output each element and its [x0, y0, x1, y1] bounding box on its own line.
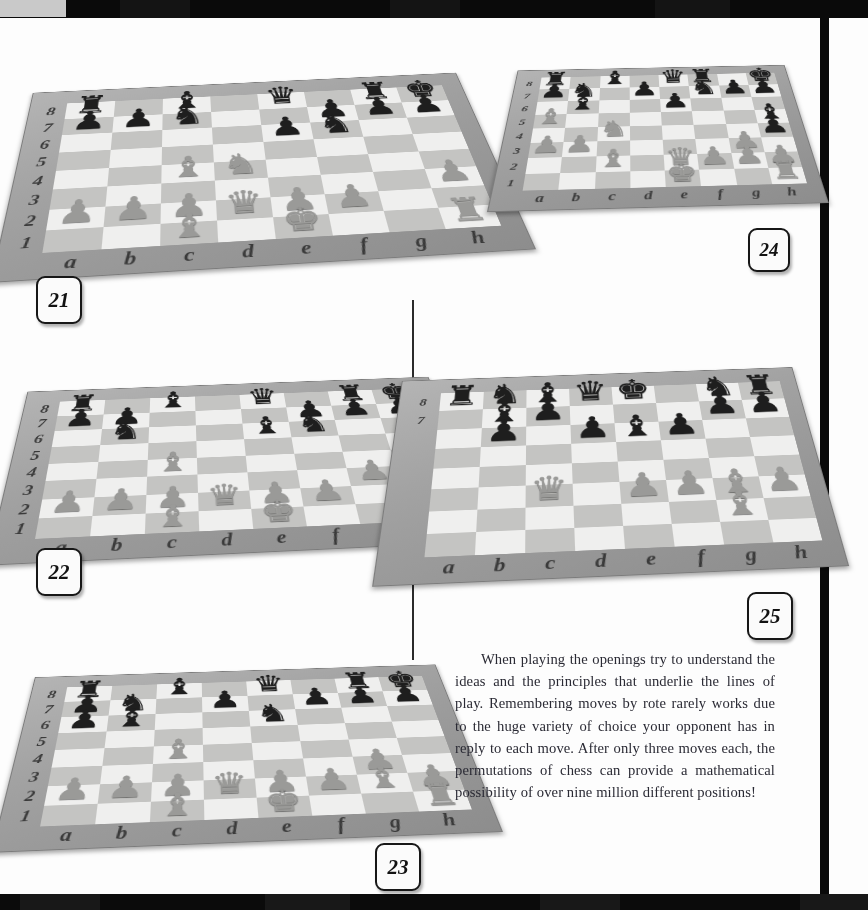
- chess-piece: ♟: [249, 488, 303, 509]
- board-square: ♞: [689, 86, 721, 99]
- chess-piece: ♞: [689, 86, 721, 99]
- board-square: [702, 418, 750, 438]
- chess-diagram-24[interactable]: ♜♝♛♜♚♟♞♟♞♟♟♝♟♝♝♞♟♟♟♟♝♛♟♟♟♚♜ 87654321 abc…: [505, 26, 805, 232]
- chess-piece: ♟: [300, 486, 355, 507]
- board-square: ♟: [202, 696, 249, 713]
- board-square: ♟: [526, 406, 570, 426]
- chess-piece: ♝: [712, 477, 763, 500]
- rank-label-6: 6: [27, 135, 62, 154]
- board-square: ♟: [353, 755, 408, 775]
- board-square: ♟: [401, 100, 454, 118]
- chess-piece: ♜: [768, 167, 807, 184]
- board-square: ♟: [39, 497, 95, 519]
- chess-piece: ♞: [289, 420, 339, 437]
- board-square: ♟: [570, 423, 616, 444]
- board-square: ♝: [567, 100, 599, 114]
- board-square: [694, 124, 728, 139]
- board-square: ♛: [664, 154, 700, 171]
- board-square: [329, 211, 390, 236]
- board-square: [199, 509, 254, 531]
- board-square: ♟: [537, 89, 569, 102]
- top-bar-segment: [390, 0, 460, 18]
- board-square: [621, 501, 671, 525]
- board-square: ♝: [716, 498, 768, 522]
- chess-piece: ♟: [481, 426, 526, 447]
- chess-piece: ♝: [357, 773, 413, 794]
- rank-label-1: 1: [1, 519, 39, 541]
- bottom-registration-bar: [0, 894, 868, 910]
- board-square: ♝: [150, 800, 204, 822]
- rank-label-4: 4: [506, 129, 533, 144]
- board-square: [574, 526, 625, 551]
- chess-piece: ♜: [439, 392, 484, 411]
- board-square: ♛: [198, 490, 251, 511]
- chess-piece: ♟: [764, 151, 802, 167]
- rank-label-4: 4: [20, 750, 55, 769]
- rank-label-8: 8: [29, 402, 60, 418]
- board-square: ♟: [764, 151, 802, 167]
- chess-piece: ♟: [112, 114, 162, 133]
- rank-label-6: 6: [512, 102, 538, 116]
- board-square: [571, 442, 618, 463]
- board-square: [699, 169, 736, 186]
- rank-label-5: [399, 449, 433, 470]
- board-square: [763, 496, 816, 520]
- chess-diagram-21[interactable]: ♜♝♛♜♚♟♟♞♟♟♟♟♞♝♞♟♟♟♟♛♟♟♝♚♜ 87654321 abcde…: [18, 30, 496, 295]
- board-square: ♟: [249, 488, 303, 509]
- board-square: [672, 522, 724, 547]
- board-square: [630, 170, 666, 188]
- board-square: [594, 171, 630, 189]
- board-square: [616, 440, 663, 461]
- chess-piece: ♟: [255, 777, 309, 798]
- chess-piece: ♛: [198, 490, 251, 511]
- board-square: [477, 486, 525, 509]
- chess-diagram-23[interactable]: ♜♝♛♜♚♟♞♟♟♟♟♟♝♞♝♟♟♟♟♛♟♟♝♟♝♚♜ 87654321 abc…: [18, 622, 468, 870]
- bottom-bar-segment: [540, 894, 620, 910]
- chess-piece: ♝: [533, 114, 567, 128]
- chess-piece: ♟: [537, 89, 569, 102]
- board-square: [341, 706, 392, 723]
- rank-label-2: 2: [11, 786, 48, 807]
- board-square: ♟: [255, 777, 309, 798]
- board-square: ♟: [151, 780, 204, 801]
- board-square: [723, 110, 757, 124]
- board-square: [435, 428, 481, 449]
- rank-label-2: 2: [6, 499, 43, 520]
- rank-label-3: 3: [16, 768, 52, 788]
- board-square: ♜: [768, 167, 807, 184]
- chess-piece: ♟: [354, 102, 406, 120]
- board-square: [155, 712, 203, 729]
- chess-piece: ♛: [239, 393, 286, 409]
- board-square: [705, 437, 754, 458]
- chess-piece: ♛: [257, 92, 307, 109]
- board-square: [35, 516, 92, 539]
- chess-piece: ♞: [310, 120, 363, 139]
- board-square: [573, 482, 622, 505]
- board-square: [156, 697, 203, 714]
- board-square: [531, 128, 566, 143]
- chess-piece: ♟: [660, 98, 692, 112]
- chess-piece: ♟: [697, 153, 733, 170]
- file-label-a: a: [519, 191, 558, 211]
- chess-piece: ♟: [748, 84, 781, 97]
- board-square: ♝: [533, 114, 567, 128]
- rank-label-3: 3: [15, 190, 53, 212]
- board-square: [734, 168, 772, 185]
- diagram-label-25: 25: [747, 592, 793, 640]
- board-square: ♞: [597, 126, 630, 141]
- board-square: [525, 157, 562, 174]
- chess-piece: ♟: [742, 398, 789, 418]
- board-square: ♟: [562, 141, 597, 157]
- chess-piece: ♟: [353, 755, 408, 775]
- board-square: ♟: [697, 153, 733, 170]
- board-square: ♚: [257, 796, 313, 818]
- rank-label-2: 2: [10, 210, 49, 233]
- rank-label-5: 5: [509, 115, 535, 129]
- board-square: [559, 172, 596, 190]
- chess-piece: ♟: [562, 141, 597, 157]
- board-square: [304, 504, 361, 526]
- chess-diagram-25[interactable]: ♜♞♝♛♚♞♜♝♟♟♟♟♟♝♟♛♟♟♝♟♝ 87 abcdefgh: [390, 330, 820, 600]
- board-square: ♟: [699, 400, 746, 420]
- board-square: [303, 757, 357, 777]
- rank-label-3: [393, 490, 429, 513]
